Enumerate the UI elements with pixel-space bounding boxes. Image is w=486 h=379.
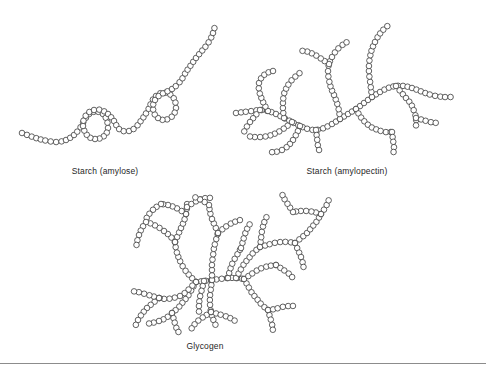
glucose-unit xyxy=(48,139,54,145)
glucose-unit xyxy=(212,242,218,248)
glucose-unit xyxy=(134,242,140,248)
glucose-unit xyxy=(232,318,238,324)
glucose-unit xyxy=(368,84,374,90)
glucose-unit xyxy=(207,195,213,201)
glucose-unit xyxy=(290,303,296,309)
glucose-unit xyxy=(105,120,111,126)
glucose-unit xyxy=(43,138,49,144)
glucose-unit xyxy=(280,192,286,198)
glucose-unit xyxy=(366,63,372,69)
glucose-unit xyxy=(326,198,332,204)
glucose-unit xyxy=(247,134,253,140)
glucose-unit xyxy=(423,118,429,124)
glucose-unit xyxy=(176,329,182,335)
glucose-unit xyxy=(174,250,180,256)
glucose-unit xyxy=(280,304,286,310)
glucose-unit xyxy=(270,68,276,74)
glucose-unit xyxy=(210,251,216,257)
caption-glycogen: Glycogen xyxy=(186,341,223,351)
glucose-unit xyxy=(248,108,254,114)
glucose-unit xyxy=(258,234,264,240)
glucose-unit xyxy=(133,322,139,328)
glucose-unit xyxy=(367,58,373,64)
glucose-unit xyxy=(196,303,202,309)
glucose-unit xyxy=(196,309,202,315)
glucose-unit xyxy=(247,222,253,228)
glucose-unit xyxy=(268,317,274,323)
glucose-unit xyxy=(301,264,307,270)
glucose-unit xyxy=(344,40,350,46)
glucose-unit xyxy=(146,321,152,327)
glucose-unit xyxy=(131,289,137,295)
glucose-unit xyxy=(241,236,247,242)
glucose-unit xyxy=(448,94,454,100)
glucose-unit xyxy=(193,195,199,201)
glucose-unit xyxy=(326,74,332,80)
glucose-unit xyxy=(427,92,433,98)
glucose-unit xyxy=(336,106,342,112)
glucose-unit xyxy=(208,287,214,293)
glucose-unit xyxy=(80,123,86,129)
glucose-unit xyxy=(267,241,273,247)
glucose-unit xyxy=(213,322,219,328)
glucose-unit xyxy=(53,139,59,145)
glucose-unit xyxy=(219,276,225,282)
glucose-unit xyxy=(279,147,285,153)
glucose-unit xyxy=(257,134,263,140)
caption-amylose: Starch (amylose) xyxy=(72,166,139,176)
glucose-unit xyxy=(303,208,309,214)
glucose-unit xyxy=(209,273,215,279)
figure-background xyxy=(0,0,486,379)
glucose-unit xyxy=(390,139,396,145)
glucose-unit xyxy=(367,74,373,80)
glucose-unit xyxy=(298,254,304,260)
glucose-unit xyxy=(272,240,278,246)
glucose-unit xyxy=(172,295,178,301)
glucose-unit xyxy=(147,292,153,298)
caption-amylopectin: Starch (amylopectin) xyxy=(307,166,388,176)
glucose-unit xyxy=(199,288,205,294)
glucose-unit xyxy=(182,216,188,222)
glucose-unit xyxy=(433,120,439,126)
glucose-unit xyxy=(275,305,281,311)
glucose-unit xyxy=(172,320,178,326)
glucose-unit xyxy=(297,70,303,76)
glucose-unit xyxy=(413,123,419,129)
glucose-unit xyxy=(121,128,127,134)
glucose-unit xyxy=(167,296,173,302)
glucose-unit xyxy=(259,229,265,235)
glucose-unit xyxy=(241,129,247,135)
glucose-unit xyxy=(218,312,224,318)
glucose-unit xyxy=(136,232,142,238)
glucose-unit xyxy=(207,302,213,308)
glucose-unit xyxy=(309,209,315,215)
glucose-unit xyxy=(280,96,286,102)
glucose-unit xyxy=(325,68,331,74)
glucose-unit xyxy=(263,134,269,140)
polysaccharide-figure xyxy=(0,0,486,379)
glucose-unit xyxy=(189,326,195,332)
glucose-unit xyxy=(156,318,162,324)
bottom-divider xyxy=(0,363,486,364)
glucose-unit xyxy=(237,217,243,223)
glucose-unit xyxy=(269,149,275,155)
glucose-unit xyxy=(327,79,333,85)
glucose-unit xyxy=(391,149,397,155)
glucose-unit xyxy=(304,126,310,132)
glucose-unit xyxy=(378,128,384,134)
glucose-unit xyxy=(283,239,289,245)
glucose-unit xyxy=(411,107,417,113)
glucose-unit xyxy=(442,94,448,100)
glucose-unit xyxy=(209,262,215,268)
glucose-unit xyxy=(300,48,306,54)
glucose-unit xyxy=(289,274,295,280)
glucose-unit xyxy=(432,93,438,99)
glucose-unit xyxy=(173,100,179,106)
glucose-unit xyxy=(91,107,97,113)
glucose-unit xyxy=(277,239,283,245)
glucose-unit xyxy=(257,91,263,97)
glucose-unit xyxy=(316,147,322,153)
glucose-unit xyxy=(212,25,218,31)
glucose-unit xyxy=(385,23,391,29)
glucose-unit xyxy=(197,293,203,299)
